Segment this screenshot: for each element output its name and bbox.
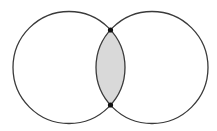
- venn-diagram: [0, 0, 217, 131]
- intersection-point-top: [108, 27, 113, 32]
- intersection-point-bottom: [108, 102, 113, 107]
